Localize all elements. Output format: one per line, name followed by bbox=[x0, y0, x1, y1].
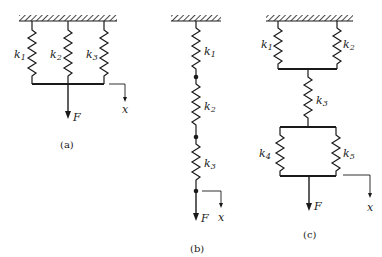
spring-k3 bbox=[192, 137, 200, 190]
label-k4: k4 bbox=[259, 147, 271, 161]
spring-k2 bbox=[64, 21, 72, 84]
label-displacement: x bbox=[122, 103, 129, 116]
force-arrowhead bbox=[306, 203, 312, 211]
spring-k2 bbox=[192, 77, 200, 137]
spring-k1 bbox=[192, 21, 200, 76]
label-k2: k2 bbox=[50, 48, 62, 62]
spring-k4 bbox=[276, 127, 284, 176]
displacement-arrowhead bbox=[368, 193, 372, 198]
label-displacement: x bbox=[367, 201, 374, 214]
displacement-arrow bbox=[202, 191, 221, 206]
displacement-arrowhead bbox=[219, 203, 223, 208]
caption-b: (b) bbox=[190, 243, 204, 254]
label-k3: k3 bbox=[204, 157, 216, 171]
spring-k1 bbox=[28, 21, 36, 84]
label-force: F bbox=[72, 111, 81, 124]
force-arrowhead bbox=[65, 111, 71, 119]
force-arrowhead bbox=[193, 213, 199, 221]
label-k1: k1 bbox=[261, 38, 273, 52]
spring-k1 bbox=[274, 21, 282, 69]
label-k1: k1 bbox=[14, 48, 26, 62]
diagram-c-combined bbox=[266, 15, 372, 211]
label-displacement: x bbox=[218, 211, 225, 224]
diagram-b-series bbox=[171, 15, 223, 221]
spring-k3 bbox=[304, 69, 312, 127]
label-force: F bbox=[313, 200, 322, 213]
label-k2: k2 bbox=[343, 38, 355, 52]
spring-k3 bbox=[100, 21, 108, 84]
ground-hatch bbox=[266, 15, 353, 21]
caption-a: (a) bbox=[60, 139, 74, 150]
label-force: F bbox=[200, 212, 209, 225]
label-k2: k2 bbox=[204, 100, 216, 114]
spring-k5 bbox=[332, 127, 340, 176]
diagram-a-parallel bbox=[19, 15, 127, 119]
label-k5: k5 bbox=[343, 147, 355, 161]
label-k1: k1 bbox=[204, 45, 216, 59]
ground-hatch bbox=[171, 15, 221, 21]
label-k3: k3 bbox=[86, 48, 98, 62]
caption-c: (c) bbox=[303, 229, 317, 240]
displacement-arrow bbox=[343, 175, 370, 196]
label-k3: k3 bbox=[316, 94, 328, 108]
spring-k2 bbox=[333, 21, 341, 69]
ground-hatch bbox=[19, 15, 117, 21]
displacement-arrow bbox=[109, 84, 125, 100]
spring-systems-figure: k1 k2 k3 F x (a) k1 k2 k3 F x (b) bbox=[0, 0, 382, 257]
displacement-arrowhead bbox=[123, 97, 127, 102]
